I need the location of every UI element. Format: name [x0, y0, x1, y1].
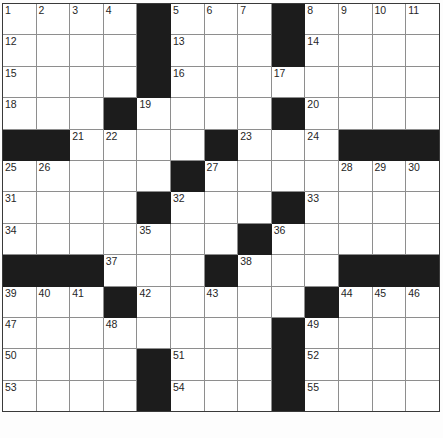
- crossword-open-cell[interactable]: [338, 317, 372, 348]
- crossword-open-cell[interactable]: 18: [3, 98, 37, 129]
- crossword-open-cell[interactable]: 14: [305, 35, 339, 66]
- crossword-open-cell[interactable]: [406, 349, 440, 380]
- crossword-open-cell[interactable]: 24: [305, 129, 339, 160]
- crossword-open-cell[interactable]: [204, 66, 238, 97]
- crossword-open-cell[interactable]: [305, 255, 339, 286]
- crossword-open-cell[interactable]: [338, 380, 372, 411]
- crossword-open-cell[interactable]: [338, 98, 372, 129]
- crossword-open-cell[interactable]: [406, 223, 440, 254]
- crossword-open-cell[interactable]: 3: [70, 4, 104, 35]
- crossword-open-cell[interactable]: [36, 349, 70, 380]
- crossword-open-cell[interactable]: [70, 35, 104, 66]
- crossword-open-cell[interactable]: [137, 255, 171, 286]
- crossword-open-cell[interactable]: 7: [238, 4, 272, 35]
- crossword-open-cell[interactable]: [338, 192, 372, 223]
- crossword-open-cell[interactable]: 41: [70, 286, 104, 317]
- crossword-open-cell[interactable]: [103, 192, 137, 223]
- crossword-open-cell[interactable]: [238, 66, 272, 97]
- crossword-open-cell[interactable]: 19: [137, 98, 171, 129]
- crossword-open-cell[interactable]: [170, 223, 204, 254]
- crossword-open-cell[interactable]: [372, 317, 406, 348]
- crossword-open-cell[interactable]: [406, 380, 440, 411]
- crossword-grid[interactable]: 1234567891011121314151617181920212223242…: [2, 3, 440, 412]
- crossword-open-cell[interactable]: [372, 223, 406, 254]
- crossword-open-cell[interactable]: [70, 192, 104, 223]
- crossword-open-cell[interactable]: [36, 98, 70, 129]
- crossword-open-cell[interactable]: [406, 98, 440, 129]
- crossword-open-cell[interactable]: [372, 35, 406, 66]
- crossword-open-cell[interactable]: 15: [3, 66, 37, 97]
- crossword-open-cell[interactable]: 26: [36, 160, 70, 191]
- crossword-open-cell[interactable]: 27: [204, 160, 238, 191]
- crossword-open-cell[interactable]: [372, 380, 406, 411]
- crossword-open-cell[interactable]: [372, 98, 406, 129]
- crossword-open-cell[interactable]: [406, 66, 440, 97]
- crossword-open-cell[interactable]: [406, 192, 440, 223]
- crossword-open-cell[interactable]: [238, 380, 272, 411]
- crossword-open-cell[interactable]: [170, 286, 204, 317]
- crossword-open-cell[interactable]: [204, 192, 238, 223]
- crossword-open-cell[interactable]: 54: [170, 380, 204, 411]
- crossword-open-cell[interactable]: 38: [238, 255, 272, 286]
- crossword-open-cell[interactable]: [36, 192, 70, 223]
- crossword-open-cell[interactable]: 29: [372, 160, 406, 191]
- crossword-open-cell[interactable]: 53: [3, 380, 37, 411]
- crossword-open-cell[interactable]: [238, 160, 272, 191]
- crossword-open-cell[interactable]: 8: [305, 4, 339, 35]
- crossword-open-cell[interactable]: [170, 255, 204, 286]
- crossword-open-cell[interactable]: 17: [271, 66, 305, 97]
- crossword-open-cell[interactable]: 1: [3, 4, 37, 35]
- crossword-open-cell[interactable]: 21: [70, 129, 104, 160]
- crossword-open-cell[interactable]: [170, 129, 204, 160]
- crossword-open-cell[interactable]: 49: [305, 317, 339, 348]
- crossword-open-cell[interactable]: [271, 160, 305, 191]
- crossword-open-cell[interactable]: [103, 160, 137, 191]
- crossword-open-cell[interactable]: 12: [3, 35, 37, 66]
- crossword-open-cell[interactable]: [338, 35, 372, 66]
- crossword-open-cell[interactable]: 36: [271, 223, 305, 254]
- crossword-open-cell[interactable]: [305, 160, 339, 191]
- crossword-open-cell[interactable]: [204, 35, 238, 66]
- crossword-open-cell[interactable]: 50: [3, 349, 37, 380]
- crossword-open-cell[interactable]: [204, 98, 238, 129]
- crossword-open-cell[interactable]: 48: [103, 317, 137, 348]
- crossword-open-cell[interactable]: [36, 380, 70, 411]
- crossword-open-cell[interactable]: 46: [406, 286, 440, 317]
- crossword-open-cell[interactable]: 37: [103, 255, 137, 286]
- crossword-open-cell[interactable]: [137, 317, 171, 348]
- crossword-open-cell[interactable]: [372, 192, 406, 223]
- crossword-open-cell[interactable]: [170, 98, 204, 129]
- crossword-open-cell[interactable]: [70, 380, 104, 411]
- crossword-open-cell[interactable]: 45: [372, 286, 406, 317]
- crossword-open-cell[interactable]: 11: [406, 4, 440, 35]
- crossword-open-cell[interactable]: 25: [3, 160, 37, 191]
- crossword-open-cell[interactable]: [238, 192, 272, 223]
- crossword-open-cell[interactable]: [70, 317, 104, 348]
- crossword-open-cell[interactable]: 10: [372, 4, 406, 35]
- crossword-open-cell[interactable]: [204, 223, 238, 254]
- crossword-open-cell[interactable]: 51: [170, 349, 204, 380]
- crossword-open-cell[interactable]: 9: [338, 4, 372, 35]
- crossword-open-cell[interactable]: 55: [305, 380, 339, 411]
- crossword-open-cell[interactable]: [103, 66, 137, 97]
- crossword-open-cell[interactable]: [36, 223, 70, 254]
- crossword-open-cell[interactable]: [103, 349, 137, 380]
- crossword-open-cell[interactable]: [372, 349, 406, 380]
- crossword-open-cell[interactable]: [271, 129, 305, 160]
- crossword-open-cell[interactable]: [204, 317, 238, 348]
- crossword-open-cell[interactable]: [204, 349, 238, 380]
- crossword-open-cell[interactable]: [238, 286, 272, 317]
- crossword-open-cell[interactable]: 43: [204, 286, 238, 317]
- crossword-open-cell[interactable]: 22: [103, 129, 137, 160]
- crossword-open-cell[interactable]: 4: [103, 4, 137, 35]
- crossword-open-cell[interactable]: [70, 349, 104, 380]
- crossword-open-cell[interactable]: 6: [204, 4, 238, 35]
- crossword-open-cell[interactable]: 40: [36, 286, 70, 317]
- crossword-open-cell[interactable]: [338, 66, 372, 97]
- crossword-open-cell[interactable]: [70, 223, 104, 254]
- crossword-open-cell[interactable]: [372, 66, 406, 97]
- crossword-open-cell[interactable]: 33: [305, 192, 339, 223]
- crossword-open-cell[interactable]: 42: [137, 286, 171, 317]
- crossword-open-cell[interactable]: [305, 66, 339, 97]
- crossword-open-cell[interactable]: [406, 35, 440, 66]
